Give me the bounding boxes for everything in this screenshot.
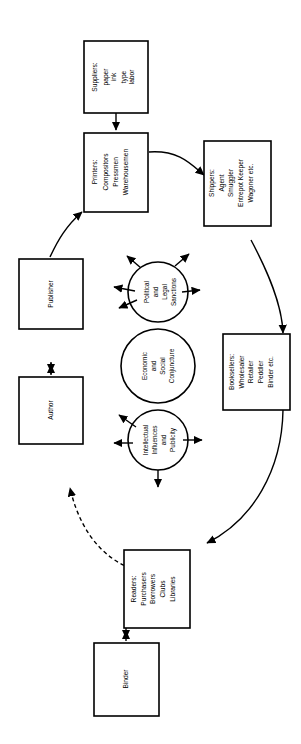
label-intellectual: Intellectual Influences and Publicity [142, 425, 177, 456]
node-shippers: Shippers: Agent Smuggler Entrepot Keeper… [204, 141, 271, 226]
link-publisher-to-printers [50, 212, 82, 257]
economic-line-3: Conjuncture [168, 348, 176, 383]
suppliers-line-1: ink [110, 72, 117, 81]
rays-intellectual [114, 415, 202, 487]
circle-intellectual-influences-publicity [128, 410, 188, 470]
booksellers-heading: Booksellers: [228, 354, 235, 390]
shippers-line-2: Entrepot Keeper [237, 158, 245, 207]
node-readers: Readers: Purchasers Borrowers Clubs Libr… [124, 550, 190, 628]
printers-heading: Printers: [91, 160, 98, 185]
node-publisher: Publisher [19, 259, 83, 329]
political-line-0: Political [143, 281, 150, 303]
printers-line-0: Compositors [102, 153, 110, 191]
label-political: Political and Legal Sanctions [143, 278, 177, 306]
suppliers-heading: Suppliers: [91, 62, 99, 91]
booksellers-line-2: Peddler [257, 360, 264, 384]
suppliers-line-2: type [120, 70, 128, 83]
shippers-heading: Shippers: [208, 169, 216, 197]
circuit-svg: Suppliers: paper ink type labor Printers… [0, 0, 301, 744]
communications-circuit-diagram: Suppliers: paper ink type labor Printers… [0, 0, 301, 744]
node-printers: Printers: Compositors Pressmen Warehouse… [84, 133, 148, 212]
intellectual-line-3: Publicity [169, 427, 177, 452]
link-printers-to-shippers [149, 152, 204, 175]
readers-heading: Readers: [130, 575, 137, 602]
political-line-1: and [152, 286, 159, 297]
shippers-line-1: Smuggler [227, 168, 235, 197]
readers-line-0: Purchasers [140, 572, 147, 606]
printers-line-1: Pressmen [112, 157, 119, 187]
binder-heading: Binder [122, 669, 129, 689]
link-shippers-to-booksellers [251, 240, 283, 333]
node-author: Author [19, 377, 83, 444]
node-binder: Binder [94, 643, 159, 716]
booksellers-line-3: Binder etc. [267, 356, 274, 388]
printers-line-2: Warehousemen [122, 149, 129, 196]
suppliers-line-3: labor [128, 69, 135, 84]
economic-line-1: and [150, 360, 157, 371]
node-booksellers: Booksellers: Wholesaler Retailer Peddler… [223, 334, 290, 410]
political-line-2: Legal [161, 284, 169, 300]
suppliers-line-0: paper [102, 68, 110, 86]
link-booksellers-to-readers [207, 410, 283, 543]
economic-line-0: Economic [141, 351, 148, 380]
shippers-line-0: Agent [218, 174, 226, 191]
booksellers-line-0: Wholesaler [238, 355, 245, 389]
readers-line-3: Libraries [169, 576, 176, 602]
intellectual-line-0: Intellectual [142, 425, 149, 456]
intellectual-line-2: and [160, 434, 167, 445]
booksellers-line-1: Retailer [247, 360, 254, 384]
shippers-line-3: Wagoner etc. [247, 163, 255, 202]
node-suppliers: Suppliers: paper ink type labor [84, 41, 148, 113]
publisher-heading: Publisher [47, 279, 54, 307]
economic-line-2: Social [159, 357, 166, 374]
intellectual-line-1: Influences [151, 425, 158, 454]
readers-line-1: Borrowers [149, 573, 156, 604]
political-line-3: Sanctions [170, 278, 177, 306]
readers-line-2: Clubs [159, 580, 166, 598]
author-heading: Author [47, 399, 54, 419]
label-economic: Economic and Social Conjuncture [141, 348, 176, 383]
